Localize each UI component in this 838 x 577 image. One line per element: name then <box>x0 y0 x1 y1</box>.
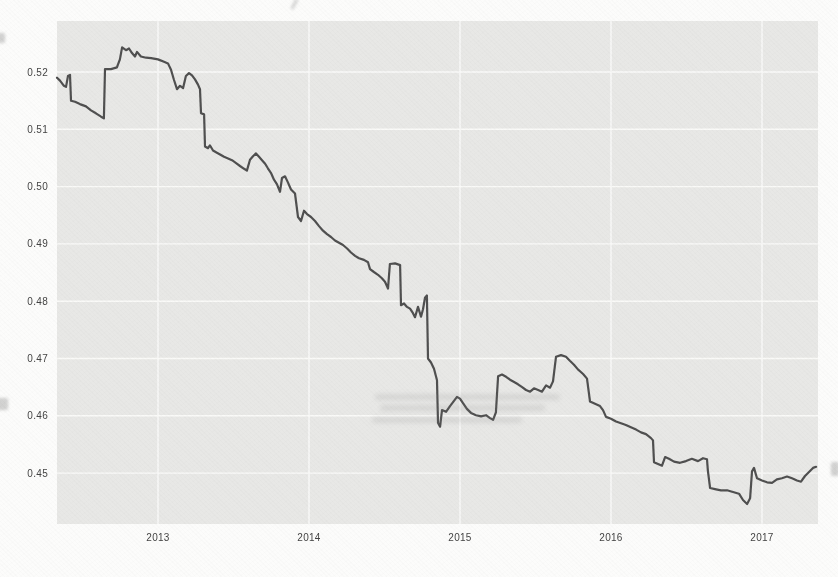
y-tick-label: 0.51 <box>27 124 48 135</box>
x-tick-label: 2013 <box>146 532 170 543</box>
scanned-chart-page: 0.520.510.500.490.480.470.460.4520132014… <box>0 0 838 577</box>
x-tick-label: 2014 <box>297 532 321 543</box>
y-tick-label: 0.45 <box>27 468 48 479</box>
y-tick-label: 0.46 <box>27 410 48 421</box>
line-chart: 0.520.510.500.490.480.470.460.4520132014… <box>0 0 838 577</box>
y-tick-label: 0.47 <box>27 353 48 364</box>
x-tick-label: 2015 <box>448 532 472 543</box>
y-tick-label: 0.48 <box>27 296 48 307</box>
y-tick-label: 0.50 <box>27 181 48 192</box>
y-tick-label: 0.49 <box>27 238 48 249</box>
plot-panel <box>57 21 818 524</box>
x-tick-label: 2016 <box>599 532 623 543</box>
x-tick-label: 2017 <box>750 532 774 543</box>
y-tick-label: 0.52 <box>27 67 48 78</box>
